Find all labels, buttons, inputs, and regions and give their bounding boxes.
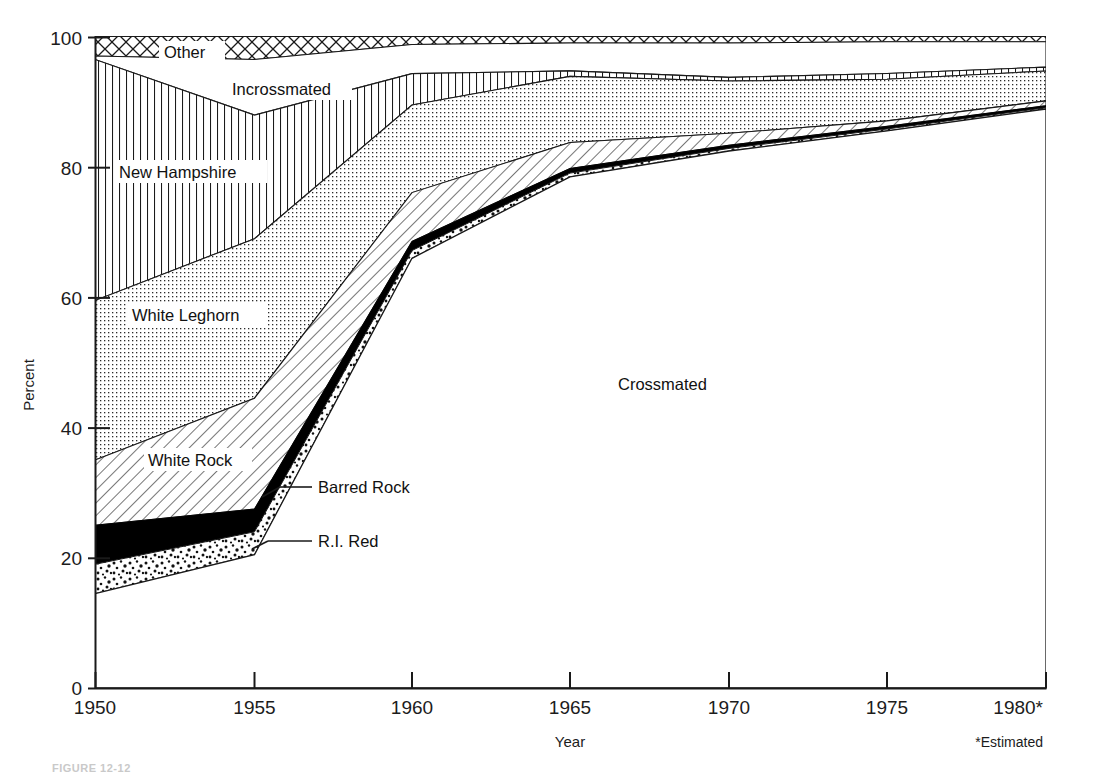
- x-tick-label-1980: 1980*: [993, 697, 1043, 718]
- y-tick-label-100: 100: [50, 28, 82, 49]
- y-tick-label-60: 60: [61, 288, 82, 309]
- band-label-barred-rock: Barred Rock: [318, 478, 410, 496]
- stacked-area-chart: 0 20 40 60 80 100 1950 1955 1960 1965 19…: [0, 0, 1094, 780]
- x-tick-label-1955: 1955: [233, 697, 275, 718]
- estimated-footnote: *Estimated: [975, 734, 1043, 750]
- chart-bands: [95, 37, 1046, 689]
- x-tick-label-1965: 1965: [549, 697, 591, 718]
- x-tick-label-1970: 1970: [708, 697, 750, 718]
- figure-root: 0 20 40 60 80 100 1950 1955 1960 1965 19…: [0, 0, 1094, 780]
- x-tick-label-1975: 1975: [866, 697, 908, 718]
- band-label-white-leghorn: White Leghorn: [132, 306, 239, 324]
- band-label-white-rock: White Rock: [148, 451, 233, 469]
- band-label-ri-red: R.I. Red: [318, 532, 379, 550]
- band-label-new-hampshire: New Hampshire: [119, 163, 236, 181]
- y-axis-title: Percent: [20, 358, 37, 411]
- figure-caption: FIGURE 12-12: [52, 762, 131, 774]
- y-tick-label-0: 0: [71, 678, 82, 699]
- y-tick-label-40: 40: [61, 418, 82, 439]
- x-axis-title: Year: [555, 733, 585, 750]
- y-tick-label-80: 80: [61, 158, 82, 179]
- band-label-incrossmated: Incrossmated: [232, 80, 331, 98]
- band-label-crossmated: Crossmated: [618, 375, 707, 393]
- x-tick-label-1950: 1950: [74, 697, 116, 718]
- y-tick-label-20: 20: [61, 548, 82, 569]
- band-label-other: Other: [164, 43, 206, 61]
- x-tick-label-1960: 1960: [391, 697, 433, 718]
